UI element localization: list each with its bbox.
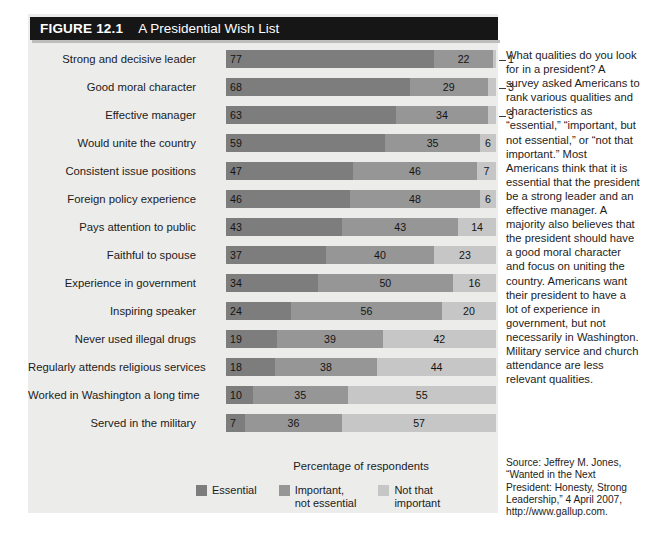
chart-row: Foreign policy experience46486 [28,190,498,218]
bar-segment-value: 44 [377,358,496,376]
bar-track: 63343 [226,106,496,124]
bar-segment-value: 48 [350,190,480,208]
bar-segment-value: 38 [275,358,378,376]
callout-leader-line [499,88,506,89]
chart-row: Pays attention to public434314 [28,218,498,246]
bar-track: 345016 [226,274,496,292]
stacked-bar-chart: Strong and decisive leader77221Good mora… [28,50,498,460]
callout-leader-line [499,116,506,117]
legend-label: Essential [212,484,257,497]
bar-segment [226,78,410,96]
bar-segment-value: 36 [245,414,342,432]
bar-segment-value: 10 [230,386,242,404]
chart-row-label: Effective manager [28,106,196,124]
bar-segment [226,190,350,208]
chart-row-label: Worked in Washington a long time [28,386,196,404]
bar-segment-value: 43 [230,218,242,236]
bar-segment-value: 46 [230,190,242,208]
bar-track: 46486 [226,190,496,208]
figure-panel: FIGURE 12.1 A Presidential Wish List Str… [28,14,498,513]
legend-item: Essential [196,484,257,497]
bar-segment-value: 57 [342,414,496,432]
bar-segment-value: 16 [453,274,496,292]
bar-segment-value: 14 [458,218,496,236]
bar-segment-value: 56 [291,302,442,320]
bar-segment-value: 6 [480,134,496,152]
figure-title: A Presidential Wish List [138,21,279,36]
bar-segment-value: 59 [230,134,242,152]
bar-segment [493,50,496,68]
bar-segment [488,78,496,96]
chart-row-label: Served in the military [28,414,196,432]
source-note: Source: Jeffrey M. Jones, “Wanted in the… [506,457,642,518]
bar-segment-value: 77 [230,50,242,68]
chart-row: Strong and decisive leader77221 [28,50,498,78]
bar-segment-value: 34 [396,106,488,124]
chart-row-label: Experience in government [28,274,196,292]
chart-row-label: Faithful to spouse [28,246,196,264]
legend-label: Important, not essential [295,484,357,509]
chart-row: Faithful to spouse374023 [28,246,498,274]
chart-row-label: Inspiring speaker [28,302,196,320]
bar-segment-value: 29 [410,78,488,96]
chart-row-label: Would unite the country [28,134,196,152]
bar-segment-value: 35 [253,386,348,404]
bar-segment-value: 39 [277,330,382,348]
figure-number: FIGURE 12.1 [40,21,123,36]
axis-caption: Percentage of respondents [226,460,496,472]
chart-row-label: Consistent issue positions [28,162,196,180]
bar-segment-value: 68 [230,78,242,96]
bar-segment-value: 37 [230,246,242,264]
legend-swatch-icon [196,485,207,496]
bar-track: 374023 [226,246,496,264]
bar-track: 434314 [226,218,496,236]
bar-segment-value: 19 [230,330,242,348]
bar-segment [226,162,353,180]
legend-swatch-icon [279,485,290,496]
commentary-text: What qualities do you look for in a pres… [506,48,640,386]
chart-row: Inspiring speaker245620 [28,302,498,330]
legend-swatch-icon [378,485,389,496]
chart-row: Experience in government345016 [28,274,498,302]
bar-segment-value: 22 [434,50,493,68]
chart-row-label: Regularly attends religious services [28,358,196,376]
chart-row: Effective manager63343 [28,106,498,134]
chart-row: Regularly attends religious services1838… [28,358,498,386]
bar-segment-value: 24 [230,302,242,320]
chart-row-label: Good moral character [28,78,196,96]
bar-segment-value: 55 [348,386,497,404]
chart-row-label: Pays attention to public [28,218,196,236]
bar-segment [226,134,385,152]
chart-legend: EssentialImportant, not essentialNot tha… [196,484,498,509]
figure-header-bar: FIGURE 12.1 A Presidential Wish List [30,17,498,40]
bar-segment-value: 6 [480,190,496,208]
chart-row: Would unite the country59356 [28,134,498,162]
legend-label: Not that important [394,484,440,509]
bar-segment-value: 43 [342,218,458,236]
legend-item: Important, not essential [279,484,357,509]
header-shadow-strip [32,40,500,43]
chart-row: Consistent issue positions47467 [28,162,498,190]
bar-segment-value: 23 [434,246,496,264]
bar-track: 103555 [226,386,496,404]
commentary-column: What qualities do you look for in a pres… [506,48,640,386]
chart-row-label: Strong and decisive leader [28,50,196,68]
bar-segment-value: 35 [385,134,480,152]
bar-segment-value: 50 [318,274,453,292]
bar-segment-value: 20 [442,302,496,320]
bar-segment-value: 7 [477,162,496,180]
bar-segment-value: 34 [230,274,242,292]
bar-segment [488,106,496,124]
bar-segment-value: 40 [326,246,434,264]
bar-track: 59356 [226,134,496,152]
bar-track: 68293 [226,78,496,96]
bar-segment [226,50,434,68]
bar-segment-value: 46 [353,162,477,180]
bar-track: 73657 [226,414,496,432]
bar-track: 77221 [226,50,496,68]
chart-row: Good moral character68293 [28,78,498,106]
bar-segment-value: 42 [383,330,496,348]
chart-row-label: Foreign policy experience [28,190,196,208]
bar-segment-value: 18 [230,358,242,376]
chart-row: Worked in Washington a long time103555 [28,386,498,414]
